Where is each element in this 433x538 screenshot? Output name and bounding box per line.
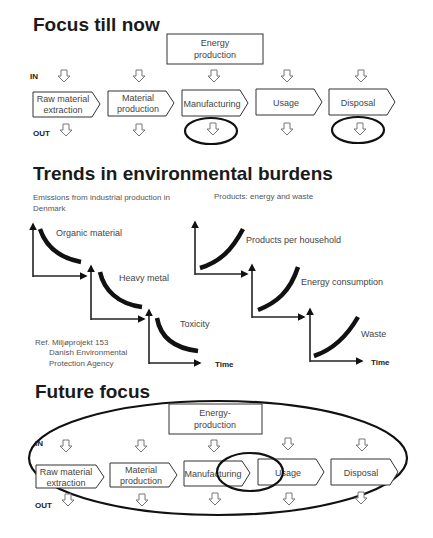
left-caption: Emissions from industrial production in: [33, 193, 170, 202]
stage-manufacturing: Manufacturing: [182, 90, 248, 116]
input-arrow-icon: [58, 70, 70, 82]
output-arrow-icon: [60, 124, 72, 136]
chart-heavy-metal: Heavy metal: [91, 266, 169, 320]
input-arrow-icon: [355, 70, 367, 82]
stage-disposal: Disposal: [331, 459, 398, 485]
svg-text:Material: Material: [122, 93, 154, 103]
svg-text:production: production: [120, 476, 162, 486]
svg-text:production: production: [117, 104, 159, 114]
svg-text:Raw material: Raw material: [40, 467, 93, 477]
output-arrow-icon: [133, 124, 145, 136]
focus-till-now-section: Focus till now Energy production IN Raw …: [30, 14, 395, 144]
energy-production-box: Energy production: [167, 34, 263, 64]
svg-text:production: production: [194, 50, 236, 60]
reference-citation: Ref. Miljøprojekt 153: [35, 338, 109, 347]
chart-toxicity: Toxicity Time: [149, 310, 234, 369]
svg-text:extraction: extraction: [46, 478, 85, 488]
output-arrow-icon: [136, 494, 148, 506]
svg-text:Manufacturing: Manufacturing: [184, 469, 241, 479]
energy-production-box: Energy- production: [169, 404, 262, 434]
stage-raw-material-extraction: Raw material extraction: [33, 92, 100, 117]
output-arrow-icon: [209, 493, 221, 505]
svg-text:Products per household: Products per household: [246, 235, 341, 245]
input-arrow-icon: [208, 440, 220, 452]
output-arrow-icon: [354, 123, 366, 135]
svg-text:Manufacturing: Manufacturing: [183, 99, 240, 109]
input-arrow-icon: [282, 438, 294, 450]
chart-organic-material: Organic material: [33, 224, 122, 277]
svg-text:Usage: Usage: [275, 468, 301, 478]
svg-text:Toxicity: Toxicity: [180, 319, 210, 329]
stage-raw-material-extraction: Raw material extraction: [36, 465, 104, 488]
output-arrow-icon: [281, 123, 293, 135]
section-title-trends: Trends in environmental burdens: [33, 163, 333, 184]
in-label: IN: [35, 439, 43, 448]
stage-material-production: Material production: [108, 91, 174, 116]
section-title-focus-till-now: Focus till now: [33, 14, 160, 35]
environmental-focus-diagram: Focus till now Energy production IN Raw …: [0, 0, 433, 538]
stage-usage: Usage: [258, 459, 324, 485]
stage-usage: Usage: [256, 89, 322, 115]
chart-waste: Waste Time: [310, 309, 390, 367]
input-arrow-icon: [356, 439, 368, 451]
section-title-future-focus: Future focus: [35, 381, 150, 402]
out-label: OUT: [35, 501, 52, 510]
svg-text:Raw material: Raw material: [37, 94, 90, 104]
right-caption: Products: energy and waste: [214, 192, 314, 201]
svg-text:Material: Material: [125, 465, 157, 475]
svg-text:Disposal: Disposal: [341, 98, 376, 108]
input-arrow-icon: [135, 440, 147, 452]
svg-text:Time: Time: [371, 358, 390, 367]
svg-text:Usage: Usage: [273, 98, 299, 108]
svg-text:Disposal: Disposal: [344, 468, 379, 478]
out-label: OUT: [33, 129, 50, 138]
svg-text:Denmark: Denmark: [33, 204, 66, 213]
svg-text:Time: Time: [215, 360, 234, 369]
svg-text:Energy-: Energy-: [199, 408, 231, 418]
input-arrow-icon: [60, 440, 72, 452]
svg-text:Waste: Waste: [361, 329, 386, 339]
input-arrow-icon: [208, 70, 220, 82]
svg-text:Danish Environmental: Danish Environmental: [49, 348, 127, 357]
trends-section: Trends in environmental burdens Emission…: [33, 163, 390, 369]
svg-text:Heavy metal: Heavy metal: [119, 273, 169, 283]
future-focus-section: Future focus Energy- production IN Raw m…: [29, 381, 407, 515]
stage-disposal: Disposal: [329, 89, 395, 115]
svg-text:production: production: [194, 420, 236, 430]
input-arrow-icon: [281, 70, 293, 82]
svg-text:Protection Agency: Protection Agency: [49, 359, 113, 368]
svg-text:Organic material: Organic material: [56, 228, 122, 238]
output-arrow-icon: [207, 123, 219, 135]
output-arrow-icon: [62, 494, 74, 506]
svg-text:extraction: extraction: [43, 105, 82, 115]
output-arrow-icon: [283, 493, 295, 505]
chart-energy-consumption: Energy consumption: [252, 265, 383, 318]
chart-products-per-household: Products per household: [195, 222, 341, 275]
svg-text:Energy: Energy: [201, 38, 230, 48]
in-label: IN: [30, 72, 38, 81]
svg-text:Energy consumption: Energy consumption: [301, 277, 383, 287]
stage-material-production: Material production: [110, 463, 177, 487]
input-arrow-icon: [133, 70, 145, 82]
